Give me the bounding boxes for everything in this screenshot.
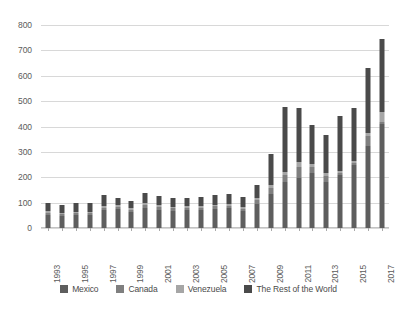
- legend-swatch-icon: [60, 285, 68, 293]
- x-axis-tick: [90, 228, 91, 231]
- bar-segment-mexico: [240, 211, 245, 228]
- bar-1997[interactable]: [101, 195, 106, 228]
- bar-2012[interactable]: [310, 125, 315, 228]
- bar-segment-the-rest-of-the-world: [157, 196, 162, 206]
- bar-segment-mexico: [157, 210, 162, 228]
- bar-segment-the-rest-of-the-world: [45, 203, 50, 212]
- x-axis-tick: [131, 228, 132, 231]
- bar-segment-the-rest-of-the-world: [282, 107, 287, 172]
- bar-segment-mexico: [143, 208, 148, 228]
- bar-2002[interactable]: [171, 198, 176, 228]
- bar-segment-the-rest-of-the-world: [352, 108, 357, 161]
- x-axis-tick-label: 2005: [219, 265, 229, 283]
- y-axis-tick-label: 0: [27, 223, 32, 233]
- bar-2013[interactable]: [324, 135, 329, 228]
- legend-swatch-icon: [244, 285, 252, 293]
- legend-item-venezuela[interactable]: Venezuela: [176, 284, 227, 294]
- x-axis-tick: [271, 228, 272, 231]
- bar-1994[interactable]: [59, 205, 64, 228]
- bar-segment-the-rest-of-the-world: [143, 193, 148, 203]
- legend-item-mexico[interactable]: Mexico: [60, 284, 98, 294]
- bar-segment-mexico: [338, 175, 343, 228]
- bar-2017[interactable]: [380, 39, 385, 228]
- x-axis-tick-label: 2001: [163, 265, 173, 283]
- bar-segment-canada: [366, 136, 371, 146]
- x-axis-tick: [104, 228, 105, 231]
- bar-segment-the-rest-of-the-world: [73, 203, 78, 212]
- bar-segment-mexico: [352, 165, 357, 228]
- legend-item-canada[interactable]: Canada: [116, 284, 157, 294]
- bar-slot: [138, 25, 152, 228]
- bar-slot: [208, 25, 222, 228]
- bar-segment-the-rest-of-the-world: [129, 201, 134, 209]
- x-axis-tick-label: 2017: [386, 265, 396, 283]
- bar-1999[interactable]: [129, 201, 134, 228]
- y-axis-tick-label: 600: [18, 71, 32, 81]
- bar-segment-the-rest-of-the-world: [185, 198, 190, 207]
- bar-segment-mexico: [366, 146, 371, 228]
- bar-segment-mexico: [59, 216, 64, 228]
- bar-segment-mexico: [380, 124, 385, 228]
- bar-slot: [222, 25, 236, 228]
- bar-slot: [166, 25, 180, 228]
- bar-slot: [292, 25, 306, 228]
- x-axis-tick: [285, 228, 286, 231]
- bar-1998[interactable]: [115, 198, 120, 228]
- x-axis-tick: [382, 228, 383, 231]
- legend-swatch-icon: [116, 285, 124, 293]
- bar-slot: [55, 25, 69, 228]
- x-axis-tick-label: 1993: [52, 265, 62, 283]
- y-axis-tick-label: 800: [18, 20, 32, 30]
- bar-2004[interactable]: [199, 197, 204, 228]
- bar-segment-the-rest-of-the-world: [87, 203, 92, 211]
- x-axis-tick: [340, 228, 341, 231]
- y-axis-tick-label: 200: [18, 172, 32, 182]
- bar-segment-the-rest-of-the-world: [115, 198, 120, 205]
- bar-2007[interactable]: [240, 197, 245, 228]
- bar-slot: [264, 25, 278, 228]
- legend-item-the-rest-of-the-world[interactable]: The Rest of the World: [244, 284, 336, 294]
- bar-segment-the-rest-of-the-world: [296, 108, 301, 163]
- x-axis-tick: [173, 228, 174, 231]
- x-axis-tick: [76, 228, 77, 231]
- x-axis-tick: [229, 228, 230, 231]
- bar-1993[interactable]: [45, 203, 50, 228]
- bar-slot: [97, 25, 111, 228]
- bar-2006[interactable]: [226, 194, 231, 228]
- bar-slot: [347, 25, 361, 228]
- bar-segment-the-rest-of-the-world: [268, 154, 273, 185]
- bar-2011[interactable]: [296, 108, 301, 229]
- bar-2005[interactable]: [212, 195, 217, 228]
- bar-segment-mexico: [73, 215, 78, 228]
- x-axis-tick: [201, 228, 202, 231]
- x-axis-tick: [215, 228, 216, 231]
- bar-2016[interactable]: [366, 68, 371, 228]
- bar-2009[interactable]: [268, 154, 273, 228]
- bar-segment-mexico: [268, 194, 273, 228]
- bar-2000[interactable]: [143, 193, 148, 228]
- x-axis-tick: [48, 228, 49, 231]
- bar-slot: [361, 25, 375, 228]
- y-axis-tick-label: 400: [18, 122, 32, 132]
- bar-segment-the-rest-of-the-world: [254, 185, 259, 197]
- bar-2015[interactable]: [352, 108, 357, 228]
- bar-slot: [278, 25, 292, 228]
- bar-segment-canada: [310, 167, 315, 174]
- x-axis-tick: [368, 228, 369, 231]
- bar-2008[interactable]: [254, 185, 259, 228]
- x-axis-tick: [187, 228, 188, 231]
- bar-2010[interactable]: [282, 107, 287, 228]
- bar-2003[interactable]: [185, 198, 190, 228]
- bar-2014[interactable]: [338, 116, 343, 228]
- y-axis-labels: 8007006005004003002001000: [0, 25, 36, 228]
- bar-segment-the-rest-of-the-world: [380, 39, 385, 112]
- bar-segment-the-rest-of-the-world: [226, 194, 231, 204]
- bar-2001[interactable]: [157, 196, 162, 228]
- legend-label: Venezuela: [188, 284, 227, 294]
- bar-segment-mexico: [87, 215, 92, 228]
- bar-1995[interactable]: [73, 203, 78, 228]
- bar-slot: [69, 25, 83, 228]
- bar-slot: [83, 25, 97, 228]
- bar-1996[interactable]: [87, 203, 92, 228]
- bar-segment-the-rest-of-the-world: [199, 197, 204, 206]
